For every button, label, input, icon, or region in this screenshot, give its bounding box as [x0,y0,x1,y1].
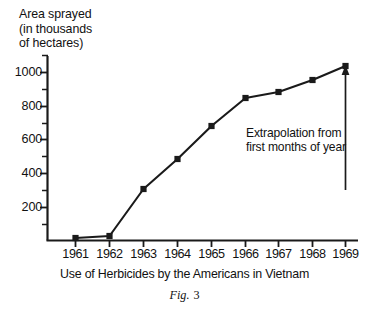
x-tick-label-1963: 1963 [125,247,163,261]
y-axis-title-line-2: (in thousands [19,22,92,37]
y-tick-label-400: 400 [0,166,42,180]
figure-number-caption: Fig.3 [0,288,369,303]
x-tick-label-1967: 1967 [260,247,298,261]
data-point [242,95,248,101]
y-axis-title-line-3: of hectares) [19,36,92,51]
data-point [106,233,112,239]
y-tick-label-1000: 1000 [0,65,42,79]
data-point [72,235,78,241]
x-tick-label-1965: 1965 [193,247,231,261]
annotation-line-1: Extrapolation from [246,126,346,140]
x-tick-label-1969: 1969 [327,247,365,261]
y-axis-title-line-1: Area sprayed [19,7,92,22]
data-point [208,123,214,129]
figure-container: Area sprayed (in thousands of hectares) … [0,0,369,311]
x-tick-label-1964: 1964 [159,247,197,261]
data-point [140,186,146,192]
data-point [309,77,315,83]
y-tick-label-600: 600 [0,132,42,146]
figure-number: 3 [193,288,199,302]
chart-caption: Use of Herbicides by the Americans in Vi… [0,267,369,281]
annotation-line-2: first months of year [246,140,346,154]
y-tick-label-800: 800 [0,99,42,113]
x-tick-label-1961: 1961 [57,247,95,261]
figure-label: Fig. [169,288,189,302]
x-tick-label-1962: 1962 [91,247,129,261]
y-axis-title: Area sprayed (in thousands of hectares) [19,7,92,51]
y-tick-label-200: 200 [0,200,42,214]
data-point [174,156,180,162]
extrapolation-annotation: Extrapolation from first months of year [246,126,346,154]
data-point [275,89,281,95]
